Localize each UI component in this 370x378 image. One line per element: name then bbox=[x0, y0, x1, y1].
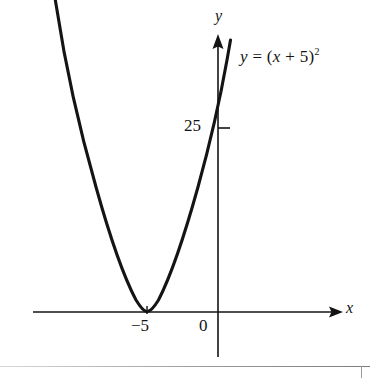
page-scan-edge-corner bbox=[361, 366, 362, 378]
x-tick-label-neg5: −5 bbox=[131, 317, 149, 334]
equation-label: y = (x + 5)2 bbox=[240, 48, 320, 65]
equation-operator-plus: + 5) bbox=[281, 47, 315, 66]
parabola-figure: y x 25 −5 0 y = (x + 5)2 bbox=[0, 0, 370, 378]
y-axis-label: y bbox=[215, 8, 222, 24]
equation-exponent: 2 bbox=[314, 46, 319, 57]
origin-label: 0 bbox=[199, 317, 208, 334]
x-axis-label: x bbox=[346, 300, 353, 316]
parabola-curve bbox=[50, 0, 230, 312]
equation-variable: x bbox=[273, 47, 281, 66]
page-scan-edge bbox=[0, 366, 370, 367]
equation-operator-eq: = ( bbox=[248, 47, 273, 66]
y-tick-label-25: 25 bbox=[184, 117, 201, 134]
equation-lhs: y bbox=[240, 47, 248, 66]
